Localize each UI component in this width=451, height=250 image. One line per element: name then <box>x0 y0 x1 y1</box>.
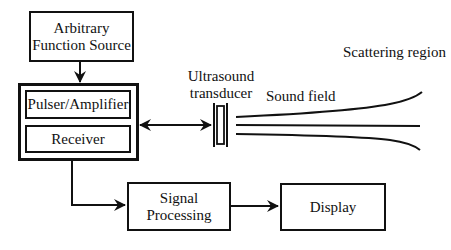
transducer-label: Ultrasound transducer <box>183 68 259 102</box>
receiver-label: Receiver <box>51 131 104 148</box>
scattering-region-label: Scattering region <box>343 44 446 61</box>
arbitrary-function-source-block: Arbitrary Function Source <box>29 11 134 62</box>
receiver-block: Receiver <box>25 125 131 153</box>
display-label: Display <box>310 199 357 216</box>
sound-field-label: Sound field <box>266 88 336 105</box>
pulser-amplifier-block: Pulser/Amplifier <box>25 90 131 119</box>
pulser-amplifier-label: Pulser/Amplifier <box>28 96 129 113</box>
function-source-line1: Arbitrary <box>54 20 110 37</box>
signal-processing-block: Signal Processing <box>127 182 231 231</box>
function-source-line2: Function Source <box>32 37 131 54</box>
signal-processing-line2: Processing <box>147 207 212 224</box>
display-block: Display <box>280 183 386 231</box>
transducer-label-line2: transducer <box>183 85 259 102</box>
arrow-receiver-to-signal <box>72 160 125 205</box>
signal-processing-line1: Signal <box>160 190 198 207</box>
ultrasound-transducer-icon <box>214 103 227 147</box>
transducer-label-line1: Ultrasound <box>183 68 259 85</box>
